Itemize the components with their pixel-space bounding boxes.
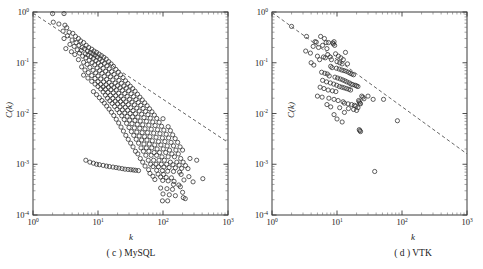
- vtk-x-tick-label: 102: [396, 217, 408, 228]
- data-point: [152, 131, 156, 135]
- data-point: [322, 86, 326, 90]
- data-point: [80, 65, 84, 69]
- data-point: [336, 98, 340, 102]
- chart-vtk-svg: 10010110210310010-110-210-310-4 k C(k) (…: [241, 0, 483, 269]
- data-point: [128, 84, 132, 88]
- data-point: [154, 153, 158, 157]
- data-point: [335, 117, 339, 121]
- data-point: [126, 137, 130, 141]
- data-point: [154, 135, 158, 139]
- data-point: [135, 122, 139, 126]
- data-point: [104, 83, 108, 87]
- mysql-x-tick-label: 103: [222, 217, 234, 228]
- mysql-x-tick-label: 101: [92, 217, 104, 228]
- data-point: [308, 51, 312, 55]
- data-point: [335, 76, 339, 80]
- mysql-y-tick-label: 10-2: [16, 108, 29, 119]
- mysql-y-tick-label: 10-3: [16, 159, 29, 170]
- data-point: [315, 94, 319, 98]
- data-point: [91, 68, 95, 72]
- vtk-y-tick-label: 10-1: [255, 57, 268, 68]
- data-point: [153, 123, 157, 127]
- data-point: [338, 106, 342, 110]
- data-point: [161, 192, 165, 196]
- panel-mysql: 10010110210310010-110-210-310-4 k C(k) (…: [0, 0, 241, 269]
- data-point: [186, 167, 190, 171]
- data-point: [149, 162, 153, 166]
- data-point: [311, 44, 315, 48]
- mysql-x-tick-label: 100: [27, 217, 39, 228]
- data-point: [142, 142, 146, 146]
- data-point: [333, 75, 337, 79]
- data-point: [373, 169, 377, 173]
- data-point: [141, 160, 145, 164]
- data-point: [105, 96, 109, 100]
- data-point: [132, 133, 136, 137]
- data-point: [136, 152, 140, 156]
- data-point: [337, 67, 341, 71]
- data-point: [134, 137, 138, 141]
- data-point: [182, 178, 186, 182]
- data-point: [151, 164, 155, 168]
- data-point: [145, 138, 149, 142]
- data-point: [147, 123, 151, 127]
- vtk-x-tick-label: 103: [461, 217, 473, 228]
- data-point: [165, 187, 169, 191]
- data-point: [171, 133, 175, 137]
- data-point: [163, 139, 167, 143]
- data-point: [159, 143, 163, 147]
- data-point: [117, 78, 121, 82]
- data-point: [326, 88, 330, 92]
- data-point: [131, 145, 135, 149]
- data-point: [117, 121, 121, 125]
- data-point: [148, 116, 152, 120]
- data-point: [145, 131, 149, 135]
- data-point: [171, 169, 175, 173]
- data-point: [136, 168, 140, 172]
- data-point: [118, 99, 122, 103]
- data-point: [84, 158, 88, 162]
- vtk-trendline: [272, 12, 467, 153]
- data-point: [155, 116, 159, 120]
- data-point: [129, 92, 133, 96]
- data-point: [130, 122, 134, 126]
- mysql-trendline: [33, 13, 228, 142]
- data-point: [95, 66, 99, 70]
- data-point: [166, 199, 170, 203]
- mysql-yaxis-label: C(k): [4, 102, 14, 118]
- data-point: [309, 61, 313, 65]
- data-point: [98, 69, 102, 73]
- data-point: [108, 99, 112, 103]
- data-point: [166, 155, 170, 159]
- data-point: [180, 148, 184, 152]
- panel-vtk: 10010110210310010-110-210-310-4 k C(k) (…: [241, 0, 482, 269]
- data-point: [332, 97, 336, 101]
- data-point: [346, 106, 350, 110]
- data-point: [333, 52, 337, 56]
- data-point: [155, 128, 159, 132]
- data-point: [73, 34, 77, 38]
- data-point: [122, 117, 126, 121]
- data-point: [166, 179, 170, 183]
- data-point: [73, 52, 77, 56]
- chart-mysql-svg: 10010110210310010-110-210-310-4 k C(k) (…: [0, 0, 241, 269]
- data-point: [143, 127, 147, 131]
- data-point: [119, 125, 123, 129]
- data-point: [345, 62, 349, 66]
- data-point: [171, 144, 175, 148]
- data-point: [51, 20, 55, 24]
- vtk-y-tick-label: 10-3: [255, 159, 268, 170]
- data-point: [147, 149, 151, 153]
- data-point: [161, 117, 165, 121]
- data-point: [149, 127, 153, 131]
- data-point: [360, 94, 364, 98]
- data-point: [124, 133, 128, 137]
- data-point: [100, 98, 104, 102]
- vtk-axes: [272, 12, 467, 215]
- data-point: [395, 119, 399, 123]
- data-point: [162, 158, 166, 162]
- vtk-xaxis-label: k: [411, 232, 416, 242]
- data-point: [96, 84, 100, 88]
- mysql-caption: ( c ) MySQL: [107, 248, 156, 259]
- data-point: [335, 60, 339, 64]
